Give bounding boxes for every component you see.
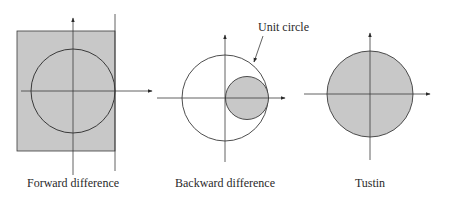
annotation-arrow — [254, 36, 263, 62]
panel-forward-difference — [17, 14, 152, 175]
stability-region-diagram — [0, 0, 449, 199]
caption-backward-difference: Backward difference — [175, 176, 275, 190]
caption-tustin: Tustin — [355, 176, 385, 190]
panel-tustin — [304, 33, 430, 160]
unit-circle-annotation: Unit circle — [258, 20, 309, 34]
caption-forward-difference: Forward difference — [27, 176, 119, 190]
panel-backward-difference — [157, 35, 285, 162]
